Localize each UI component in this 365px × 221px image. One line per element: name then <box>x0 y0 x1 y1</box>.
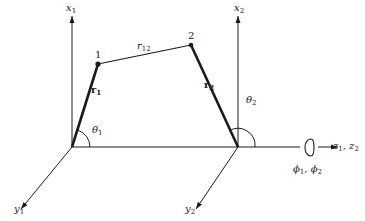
rotation-arrow-icon <box>305 139 314 156</box>
point-2-dot <box>189 43 194 48</box>
point-2-label: 2 <box>188 31 194 41</box>
r2-label: r2 <box>204 80 214 91</box>
y2-label: y2 <box>185 204 195 216</box>
r12-sub: 12 <box>142 45 151 53</box>
diagram-canvas <box>0 0 365 221</box>
r2-sub: 2 <box>209 83 214 92</box>
coordinate-diagram: x1 x2 1 2 r12 r1 r2 θ1 θ2 z1, z2 ϕ1, ϕ2 … <box>0 0 365 221</box>
phi2-sub: 2 <box>317 168 321 176</box>
z2-base: , z <box>343 140 355 151</box>
x2-label: x2 <box>234 3 244 15</box>
phi2-base: , ϕ <box>304 163 317 174</box>
r2-vector <box>191 45 238 147</box>
point-1-label: 1 <box>95 50 101 60</box>
z2-sub: 2 <box>354 145 358 153</box>
theta1-sub: 1 <box>98 129 102 137</box>
r1-label: r1 <box>91 85 101 96</box>
theta2-sub: 2 <box>252 99 256 107</box>
phi-label: ϕ1, ϕ2 <box>293 164 322 176</box>
theta1-arc <box>78 130 91 147</box>
y2-axis <box>196 147 238 209</box>
y1-label: y1 <box>14 204 24 216</box>
theta1-label: θ1 <box>92 125 103 137</box>
point-1-dot <box>95 61 100 66</box>
x1-sub: 1 <box>72 7 76 15</box>
y2-sub: 2 <box>191 208 195 216</box>
theta2-label: θ2 <box>246 95 257 107</box>
x1-label: x1 <box>66 3 76 15</box>
y1-axis <box>21 147 72 209</box>
r12-label: r12 <box>137 41 151 53</box>
x2-sub: 2 <box>240 7 244 15</box>
phi1-base: ϕ <box>293 163 300 174</box>
r1-sub: 1 <box>96 88 101 97</box>
z-label: z1, z2 <box>333 141 359 153</box>
y1-sub: 1 <box>20 208 24 216</box>
